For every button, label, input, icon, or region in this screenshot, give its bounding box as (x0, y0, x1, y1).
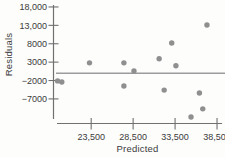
data-point (169, 40, 174, 45)
y-tick-label: −7000 (22, 94, 47, 104)
data-point (173, 63, 178, 68)
x-tick-label: 38,500 (203, 132, 225, 142)
data-point (204, 22, 209, 27)
data-point (188, 114, 193, 119)
y-axis-title: Residuals (3, 5, 14, 105)
y-tick-label: 3000 (27, 57, 47, 67)
data-point (131, 68, 136, 73)
y-tick-label: 8000 (27, 39, 47, 49)
data-point (87, 60, 92, 65)
x-tick-label: 28,500 (119, 132, 147, 142)
data-point (156, 56, 161, 61)
y-tick-label: −2000 (22, 76, 47, 86)
y-tick-label: 13,000 (19, 21, 47, 31)
x-tick-label: 23,500 (77, 132, 105, 142)
data-point (161, 87, 166, 92)
data-point (121, 60, 126, 65)
x-axis-title: Predicted (50, 143, 225, 154)
data-point (121, 83, 126, 88)
plot-canvas: 18,00013,00080003000−2000−700023,50028,5… (0, 0, 225, 158)
residuals-scatter-plot: 18,00013,00080003000−2000−700023,50028,5… (0, 0, 225, 158)
data-point (59, 79, 64, 84)
data-point (197, 90, 202, 95)
y-tick-label: 18,000 (19, 2, 47, 12)
x-tick-label: 33,500 (161, 132, 189, 142)
data-point (200, 106, 205, 111)
